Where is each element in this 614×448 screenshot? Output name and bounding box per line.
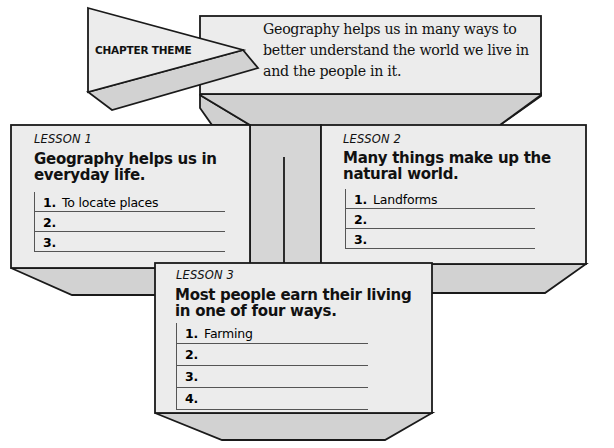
chapter-theme-label: CHAPTER THEME: [95, 44, 192, 56]
lesson1-list: 1.To locate places 2. 3.: [34, 192, 225, 252]
list-item[interactable]: 1.Farming: [177, 323, 368, 344]
lesson2-tag: LESSON 2: [343, 132, 401, 146]
list-item[interactable]: 1.To locate places: [35, 192, 225, 212]
theme-line: Geography helps us in many ways to: [263, 19, 529, 40]
list-item[interactable]: 3.: [177, 366, 368, 388]
list-item[interactable]: 3.: [346, 229, 535, 249]
lesson3-shade: [155, 413, 432, 440]
lesson2-title: Many things make up the natural world.: [343, 151, 551, 182]
lesson1-tag: LESSON 1: [34, 132, 92, 146]
list-item[interactable]: 2.: [346, 209, 535, 229]
lesson1-title: Geography helps us in everyday life.: [34, 152, 217, 183]
list-item[interactable]: 1.Landforms: [346, 189, 535, 209]
lesson1-title-line: everyday life.: [34, 168, 217, 184]
lesson3-tag: LESSON 3: [176, 268, 234, 282]
lesson3-list: 1.Farming 2. 3. 4.: [176, 323, 368, 410]
list-item[interactable]: 2.: [177, 344, 368, 366]
list-item[interactable]: 2.: [35, 212, 225, 232]
chapter-theme-text: Geography helps us in many ways to bette…: [263, 19, 529, 82]
list-item[interactable]: 3.: [35, 232, 225, 252]
lesson2-title-line: natural world.: [343, 167, 551, 183]
theme-line: and the people in it.: [263, 61, 529, 82]
list-item[interactable]: 4.: [177, 388, 368, 410]
theme-line: better understand the world we live in: [263, 40, 529, 61]
center-column: [250, 125, 321, 268]
lesson3-title-line: in one of four ways.: [175, 304, 411, 320]
lesson3-title: Most people earn their living in one of …: [175, 288, 411, 319]
lesson2-list: 1.Landforms 2. 3.: [345, 189, 535, 249]
